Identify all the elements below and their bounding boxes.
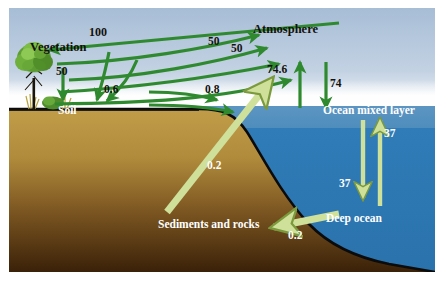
soil-surface-line — [9, 109, 199, 111]
tree-trunk — [33, 78, 36, 109]
diagram-frame: Vegetation Soil Atmosphere Ocean mixed l… — [9, 8, 435, 272]
scene-graphics — [9, 8, 435, 272]
carbon-cycle-diagram: Vegetation Soil Atmosphere Ocean mixed l… — [0, 0, 444, 281]
